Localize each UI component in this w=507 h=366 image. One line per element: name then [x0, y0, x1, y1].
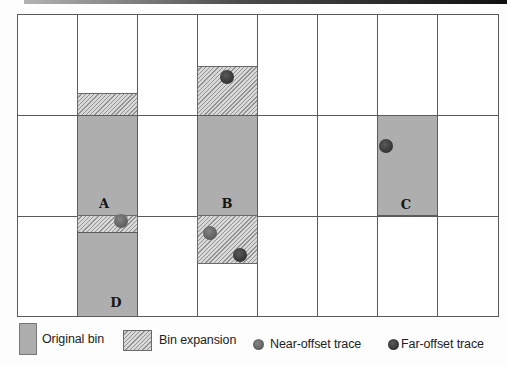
bin-label-B: B — [222, 197, 233, 210]
bin-A-expansion-bottom — [77, 215, 138, 233]
legend-item-original-bin: Original bin — [19, 323, 104, 355]
far-offset-trace-dot — [233, 248, 247, 262]
bin-label-A: A — [99, 197, 109, 210]
legend-item-near-offset: Near-offset trace — [253, 338, 361, 351]
bin-label-D: D — [110, 296, 121, 309]
bin-expansion-swatch — [123, 330, 152, 351]
legend-label-original-bin: Original bin — [42, 333, 104, 346]
far-offset-dot-icon — [388, 339, 399, 350]
legend-label-near-offset: Near-offset trace — [270, 338, 361, 351]
bin-B-expansion-bottom — [197, 215, 258, 264]
near-offset-dot-icon — [253, 339, 264, 350]
bin-label-C: C — [401, 198, 411, 211]
bin-grid-diagram: ABCD — [0, 0, 507, 366]
grid-column-line — [317, 14, 318, 317]
bin-A-expansion-top — [77, 93, 138, 116]
near-offset-trace-dot — [203, 226, 217, 240]
legend-item-far-offset: Far-offset trace — [388, 338, 484, 351]
original-bin-swatch — [19, 323, 37, 355]
legend-item-bin-expansion: Bin expansion — [123, 330, 236, 351]
far-offset-trace-dot — [220, 70, 234, 84]
legend-label-bin-expansion: Bin expansion — [159, 334, 236, 347]
legend-label-far-offset: Far-offset trace — [401, 338, 484, 351]
far-offset-trace-dot — [379, 139, 393, 153]
bin-D-original — [77, 232, 138, 317]
near-offset-trace-dot — [114, 214, 128, 228]
